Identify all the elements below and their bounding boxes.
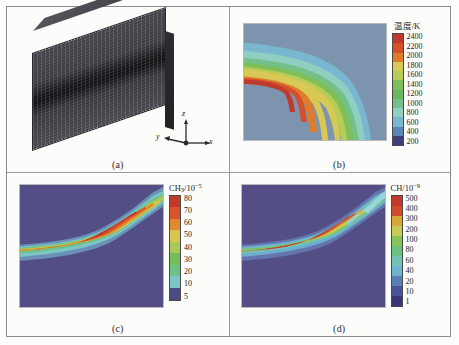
tick: 30 xyxy=(184,256,192,264)
colorbar-strip-ch xyxy=(391,195,403,307)
colorbar-ticks-temperature: 2400 2200 2000 1800 1600 1400 1200 1000 … xyxy=(407,33,423,146)
tick: 10 xyxy=(184,280,192,288)
colorbar-title-ch3: CH3/10−5 xyxy=(169,182,202,193)
colorbar-title-temperature: 温度/K xyxy=(392,19,423,31)
ch3-field xyxy=(19,184,164,308)
temperature-colorbar: 温度/K 2400 2200 2000 1800 1600 1400 xyxy=(392,19,423,146)
tick: 20 xyxy=(406,278,418,286)
mesh-view: z x y xyxy=(7,7,229,172)
tick: 100 xyxy=(406,236,418,244)
tick: 80 xyxy=(406,246,418,254)
tick: 300 xyxy=(406,215,418,223)
tick: 20 xyxy=(184,268,192,276)
panel-b: 温度/K 2400 2200 2000 1800 1600 1400 xyxy=(229,7,451,172)
panel-c-caption: (c) xyxy=(7,323,229,334)
colorbar-ticks-ch: 500 400 300 200 100 80 60 40 20 10 1 xyxy=(406,195,418,307)
panel-a-caption: (a) xyxy=(7,159,229,170)
tick: 400 xyxy=(407,128,423,136)
axis-label-x: x xyxy=(209,137,213,146)
axis-triad: z x y xyxy=(155,113,217,157)
tick: 800 xyxy=(407,109,423,117)
panel-b-caption: (b) xyxy=(229,159,451,170)
tick: 200 xyxy=(406,226,418,234)
tick: 2200 xyxy=(407,43,423,51)
colorbar-strip-ch3 xyxy=(169,195,181,301)
panel-d-caption: (d) xyxy=(229,323,451,334)
panel-c: CH3/10−5 80 70 60 50 40 30 20 xyxy=(7,172,229,337)
tick: 50 xyxy=(184,231,192,239)
species-name: CH xyxy=(169,183,181,193)
temperature-field xyxy=(243,23,387,141)
tick: 200 xyxy=(407,138,423,146)
panel-a: z x y (a) xyxy=(7,7,229,172)
tick: 1 xyxy=(406,298,418,306)
tick: 2400 xyxy=(407,33,423,41)
tick: 400 xyxy=(406,205,418,213)
ch-colorbar: CH/10−9 500 400 300 200 100 80 xyxy=(391,182,421,307)
tick: 1200 xyxy=(407,90,423,98)
tick: 80 xyxy=(184,195,192,203)
scale-divisor: /10 xyxy=(402,183,413,193)
tick: 40 xyxy=(184,244,192,252)
tick: 1400 xyxy=(407,81,423,89)
panel-d: CH/10−9 500 400 300 200 100 80 xyxy=(229,172,451,337)
colorbar-strip-temperature xyxy=(392,33,404,146)
mesh-front-face xyxy=(33,8,165,149)
tick: 60 xyxy=(184,219,192,227)
tick: 70 xyxy=(184,207,192,215)
tick: 2000 xyxy=(407,52,423,60)
scale-exponent: −9 xyxy=(413,182,420,189)
tick: 40 xyxy=(406,267,418,275)
axis-label-y: y xyxy=(156,132,160,141)
ch3-colorbar: CH3/10−5 80 70 60 50 40 30 20 xyxy=(169,182,202,301)
scale-divisor: /10 xyxy=(184,183,195,193)
figure-container: z x y (a) xyxy=(6,6,451,337)
colorbar-ticks-ch3: 80 70 60 50 40 30 20 10 5 xyxy=(184,195,192,301)
species-name: CH xyxy=(391,183,403,193)
tick: 1600 xyxy=(407,71,423,79)
scale-exponent: −5 xyxy=(195,182,202,189)
axis-label-z: z xyxy=(182,109,185,118)
tick: 1000 xyxy=(407,100,423,108)
tick: 5 xyxy=(184,293,192,301)
tick: 10 xyxy=(406,288,418,296)
tick: 1800 xyxy=(407,62,423,70)
tick: 500 xyxy=(406,195,418,203)
tick: 600 xyxy=(407,119,423,127)
tick: 60 xyxy=(406,257,418,265)
colorbar-title-ch: CH/10−9 xyxy=(391,182,421,193)
ch-field xyxy=(241,184,386,308)
